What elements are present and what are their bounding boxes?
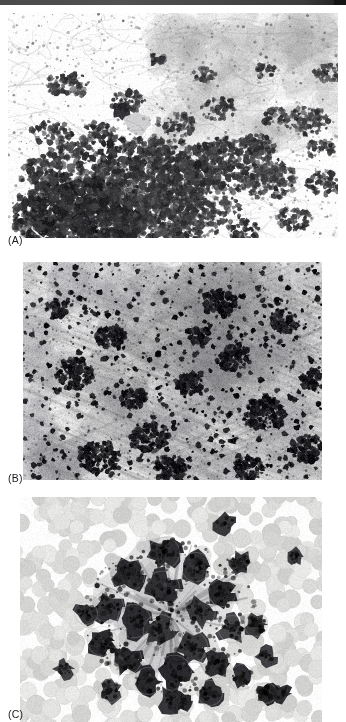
panel-label-c: (C) [8,708,23,720]
micrograph-panel-c [20,497,322,722]
panel-label-b: (B) [8,472,23,484]
micrograph-canvas-c [20,497,322,722]
panel-label-a: (A) [8,234,23,246]
micrograph-canvas-a [8,13,338,238]
micrograph-canvas-b [23,262,322,480]
micrograph-panel-a [8,13,338,238]
figure-container: (A) (B) (C) [0,5,346,722]
micrograph-panel-b [23,262,322,480]
